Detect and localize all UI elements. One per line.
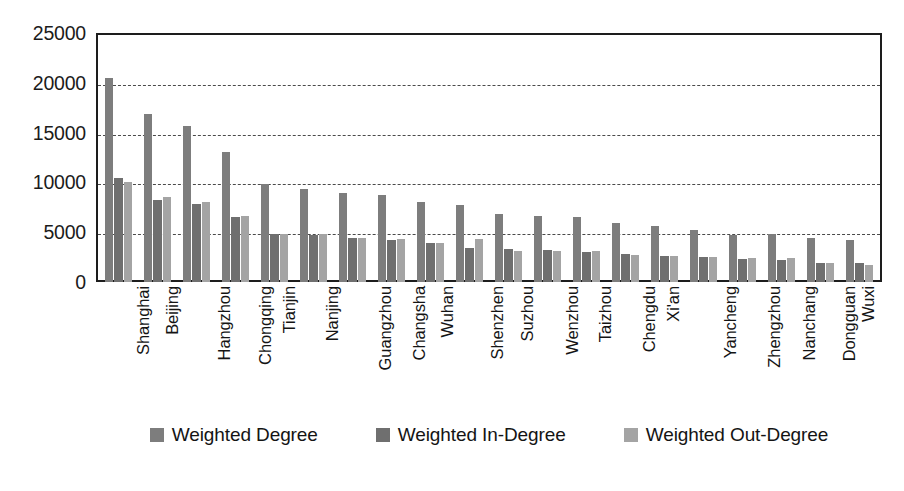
x-tick-label-text: Xi'an (663, 286, 682, 322)
bar-group (684, 33, 723, 282)
x-tick-label: Chongqing (275, 207, 294, 286)
legend-swatch-icon (376, 428, 390, 442)
x-tick: Tianjin (255, 286, 294, 406)
x-tick-label: Shanghai (153, 217, 172, 286)
y-tick-label: 10000 (8, 171, 86, 194)
bar (729, 235, 738, 282)
bar (807, 238, 816, 282)
x-tick: Wuxi (840, 286, 879, 406)
x-tick-label: Xi'an (682, 250, 701, 286)
x-tick-label: Dongguan (858, 211, 877, 286)
bar (144, 114, 153, 282)
x-tick: Suzhou (489, 286, 528, 406)
x-tick: Chengdu (606, 286, 645, 406)
x-tick-label: Beijing (182, 237, 201, 286)
x-tick: Guangzhou (333, 286, 372, 406)
legend-item[interactable]: Weighted In-Degree (376, 424, 566, 446)
x-tick: Nanchang (762, 286, 801, 406)
x-tick-label: Nanjing (341, 231, 360, 286)
legend-swatch-icon (624, 428, 638, 442)
x-tick-label: Zhengzhou (783, 204, 802, 286)
y-tick-label: 25000 (8, 22, 86, 45)
x-tick-label: Shenzhen (506, 212, 525, 286)
x-tick-label: Changsha (429, 212, 448, 286)
x-tick-label: Chengdu (659, 220, 678, 286)
x-tick-label: Guangzhou (395, 202, 414, 286)
bar (417, 202, 426, 282)
bar (222, 152, 231, 282)
y-axis: 2500020000150001000050000 (8, 33, 86, 282)
x-tick: Shanghai (99, 286, 138, 406)
x-tick-label: Taizhou (615, 230, 634, 286)
x-tick-label: Tianjin (298, 239, 317, 286)
bar-group (99, 33, 138, 282)
x-tick-label: Wuhan (456, 235, 475, 286)
x-tick: Yancheng (684, 286, 723, 406)
bar (475, 239, 484, 282)
x-tick-label: Nanchang (819, 212, 838, 286)
bar (124, 182, 133, 282)
bar (768, 234, 777, 282)
x-tick: Dongguan (801, 286, 840, 406)
legend-label: Weighted Degree (172, 424, 318, 446)
legend-item[interactable]: Weighted Degree (150, 424, 318, 446)
bar-chart: 2500020000150001000050000 ShanghaiBeijin… (0, 0, 904, 491)
x-axis: ShanghaiBeijingHangzhouChongqingTianjinN… (96, 286, 882, 406)
plot-area (96, 33, 882, 282)
x-tick-label: Suzhou (536, 231, 555, 286)
legend-label: Weighted In-Degree (398, 424, 566, 446)
legend-swatch-icon (150, 428, 164, 442)
bar (105, 78, 114, 282)
x-tick: Wuhan (411, 286, 450, 406)
x-tick-label: Yancheng (740, 214, 759, 286)
x-tick: Shenzhen (450, 286, 489, 406)
x-tick: Beijing (138, 286, 177, 406)
x-tick: Chongqing (216, 286, 255, 406)
x-tick-label: Hangzhou (234, 212, 253, 286)
x-tick: Xi'an (645, 286, 684, 406)
x-tick: Changsha (372, 286, 411, 406)
chart-legend: Weighted DegreeWeighted In-DegreeWeighte… (96, 424, 882, 446)
bar (651, 226, 660, 282)
legend-item[interactable]: Weighted Out-Degree (624, 424, 829, 446)
x-tick-label: Wenzhou (582, 217, 601, 286)
bar (573, 217, 582, 282)
bar (378, 195, 387, 282)
x-tick-label-text: Wuxi (858, 286, 877, 322)
x-tick: Hangzhou (177, 286, 216, 406)
y-tick-label: 20000 (8, 71, 86, 94)
x-tick: Zhengzhou (723, 286, 762, 406)
x-tick-label: Wuxi (877, 250, 896, 286)
y-tick-label: 5000 (8, 221, 86, 244)
bar (495, 214, 504, 282)
x-tick: Taizhou (567, 286, 606, 406)
bar (114, 178, 123, 282)
bar (319, 234, 328, 282)
bar (261, 184, 270, 282)
legend-label: Weighted Out-Degree (646, 424, 829, 446)
bar (846, 240, 855, 282)
bar (709, 257, 718, 282)
y-tick-label: 0 (8, 271, 86, 294)
x-tick: Nanjing (294, 286, 333, 406)
bar (202, 202, 211, 282)
y-tick-label: 15000 (8, 121, 86, 144)
x-tick: Wenzhou (528, 286, 567, 406)
